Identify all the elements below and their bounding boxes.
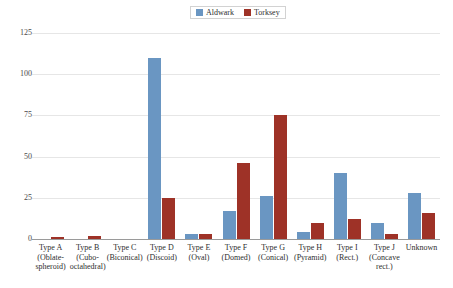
x-tick-label-line: Type C bbox=[106, 243, 143, 253]
x-tick-label-line: spheroid) bbox=[32, 262, 69, 272]
x-tick-label-line: Type G bbox=[255, 243, 292, 253]
x-tick-label: Type F(Domed) bbox=[217, 243, 254, 272]
x-tick-label: Type E(Oval) bbox=[180, 243, 217, 272]
x-tick-label-line: Type F bbox=[217, 243, 254, 253]
x-tick-label: Type B(Cubo-octahedral) bbox=[69, 243, 106, 272]
x-tick-label-line: (Domed) bbox=[217, 253, 254, 263]
x-tick-label-line: octahedral) bbox=[69, 262, 106, 272]
x-tick-label-line: (Rect.) bbox=[329, 253, 366, 263]
figure: Aldwark Torksey 0255075100125 Type A(Obl… bbox=[0, 0, 453, 288]
figure-caption bbox=[6, 279, 446, 288]
x-tick-label-line: Type B bbox=[69, 243, 106, 253]
x-tick-label-line: Type I bbox=[329, 243, 366, 253]
x-tick-label-line: Type D bbox=[143, 243, 180, 253]
legend-swatch-torksey bbox=[244, 9, 251, 16]
x-tick-label-line: (Discoid) bbox=[143, 253, 180, 263]
y-axis-labels: 0255075100125 bbox=[32, 33, 440, 240]
x-tick-label: Type D(Discoid) bbox=[143, 243, 180, 272]
x-tick-label-line: (Conical) bbox=[255, 253, 292, 263]
legend-entry-torksey: Torksey bbox=[244, 8, 280, 17]
y-tick-label: 100 bbox=[2, 70, 32, 78]
x-tick-label-line: (Concave bbox=[366, 253, 403, 263]
x-tick-label: Type G(Conical) bbox=[255, 243, 292, 272]
x-tick-label: Type H(Pyramid) bbox=[292, 243, 329, 272]
y-tick-label: 75 bbox=[2, 111, 32, 119]
chart-legend: Aldwark Torksey bbox=[190, 6, 286, 19]
x-tick-label-line: Type J bbox=[366, 243, 403, 253]
x-tick-label: Type I(Rect.) bbox=[329, 243, 366, 272]
legend-swatch-aldwark bbox=[196, 9, 203, 16]
x-axis-labels: Type A(Oblate-spheroid)Type B(Cubo-octah… bbox=[32, 243, 440, 272]
x-tick-label-line: (Oblate- bbox=[32, 253, 69, 263]
y-tick-label: 25 bbox=[2, 194, 32, 202]
legend-label-torksey: Torksey bbox=[254, 8, 280, 17]
legend-label-aldwark: Aldwark bbox=[206, 8, 234, 17]
x-tick-label-line: (Oval) bbox=[180, 253, 217, 263]
x-tick-label-line: (Cubo- bbox=[69, 253, 106, 263]
x-tick-label-line: rect.) bbox=[366, 262, 403, 272]
x-tick-label: Type A(Oblate-spheroid) bbox=[32, 243, 69, 272]
x-tick-label-line: (Biconical) bbox=[106, 253, 143, 263]
x-tick-label-line: Type A bbox=[32, 243, 69, 253]
x-tick-label-line: Unknown bbox=[403, 243, 440, 253]
legend-entry-aldwark: Aldwark bbox=[196, 8, 234, 17]
x-tick-label-line: Type E bbox=[180, 243, 217, 253]
x-tick-label: Unknown bbox=[403, 243, 440, 272]
x-tick-label: Type C(Biconical) bbox=[106, 243, 143, 272]
x-tick-label: Type J(Concaverect.) bbox=[366, 243, 403, 272]
x-tick-label-line: Type H bbox=[292, 243, 329, 253]
y-tick-label: 50 bbox=[2, 153, 32, 161]
x-tick-label-line: (Pyramid) bbox=[292, 253, 329, 263]
y-tick-label: 125 bbox=[2, 29, 32, 37]
y-tick-label: 0 bbox=[2, 235, 32, 243]
